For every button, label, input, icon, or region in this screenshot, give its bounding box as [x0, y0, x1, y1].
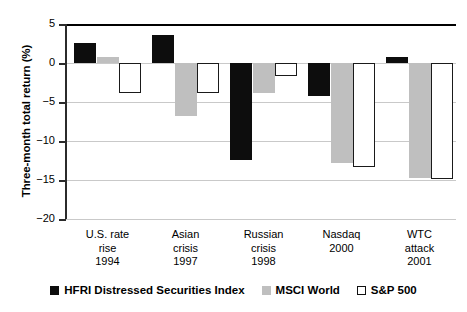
- gridline: [66, 141, 456, 142]
- bar-msci-4: [409, 63, 431, 178]
- bar-snp-1: [197, 63, 219, 93]
- category-label-1: Asiancrisis1997: [143, 228, 229, 269]
- category-label-line: 1994: [65, 255, 151, 269]
- y-axis-title: Three-month total return (%): [20, 26, 32, 216]
- category-label-line: Nasdaq: [299, 228, 385, 242]
- y-axis-tick-label: −10: [9, 134, 55, 146]
- bar-msci-1: [175, 63, 197, 116]
- category-label-line: WTC: [377, 228, 463, 242]
- y-axis-tick: [59, 219, 66, 221]
- category-label-2: Russiancrisis1998: [221, 228, 307, 269]
- y-axis-tick-label: −5: [9, 95, 55, 107]
- legend-swatch-snp-icon: [357, 286, 366, 295]
- legend-entry-hfri[interactable]: HFRI Distressed Securities Index: [50, 284, 244, 296]
- category-label-line: 2001: [377, 255, 463, 269]
- y-axis-tick-label: 5: [9, 17, 55, 29]
- bar-snp-3: [353, 63, 375, 167]
- category-label-line: 2000: [299, 242, 385, 256]
- zero-line: [66, 24, 456, 26]
- bar-hfri-0: [74, 43, 96, 63]
- y-axis-tick: [59, 180, 66, 182]
- y-axis-tick-label: 0: [9, 56, 55, 68]
- chart-legend: HFRI Distressed Securities IndexMSCI Wor…: [0, 284, 467, 296]
- y-axis-tick-label: −20: [9, 212, 55, 224]
- y-axis-line: [65, 24, 67, 219]
- category-label-0: U.S. raterise1994: [65, 228, 151, 269]
- gridline: [66, 219, 456, 220]
- bar-msci-2: [253, 63, 275, 93]
- category-label-line: attack: [377, 242, 463, 256]
- bar-snp-2: [275, 63, 297, 76]
- legend-label: S&P 500: [371, 284, 417, 296]
- category-label-line: 1998: [221, 255, 307, 269]
- bar-msci-3: [331, 63, 353, 163]
- legend-label: MSCI World: [276, 284, 340, 296]
- y-axis-tick: [59, 63, 66, 65]
- category-label-line: Asian: [143, 228, 229, 242]
- legend-entry-snp[interactable]: S&P 500: [357, 284, 417, 296]
- legend-swatch-msci-icon: [262, 286, 271, 295]
- category-label-line: Russian: [221, 228, 307, 242]
- category-label-line: 1997: [143, 255, 229, 269]
- bar-hfri-4: [386, 57, 408, 63]
- gridline: [66, 180, 456, 181]
- legend-label: HFRI Distressed Securities Index: [64, 284, 244, 296]
- y-axis-tick: [59, 141, 66, 143]
- y-axis-tick: [59, 24, 66, 26]
- category-label-line: crisis: [143, 242, 229, 256]
- bar-snp-0: [119, 63, 141, 93]
- legend-entry-msci[interactable]: MSCI World: [262, 284, 340, 296]
- plot-area: [66, 24, 456, 219]
- category-label-4: WTCattack2001: [377, 228, 463, 269]
- category-label-line: rise: [65, 242, 151, 256]
- legend-swatch-hfri-icon: [50, 286, 59, 295]
- bar-snp-4: [431, 63, 453, 179]
- chart-figure: Three-month total return (%) 50−5−10−15−…: [0, 0, 467, 312]
- bar-hfri-3: [308, 63, 330, 96]
- bar-hfri-2: [230, 63, 252, 160]
- gridline: [66, 102, 456, 103]
- category-label-line: U.S. rate: [65, 228, 151, 242]
- category-label-line: crisis: [221, 242, 307, 256]
- bar-hfri-1: [152, 35, 174, 63]
- y-axis-tick-label: −15: [9, 173, 55, 185]
- category-label-3: Nasdaq2000: [299, 228, 385, 255]
- bar-msci-0: [97, 57, 119, 63]
- y-axis-tick: [59, 102, 66, 104]
